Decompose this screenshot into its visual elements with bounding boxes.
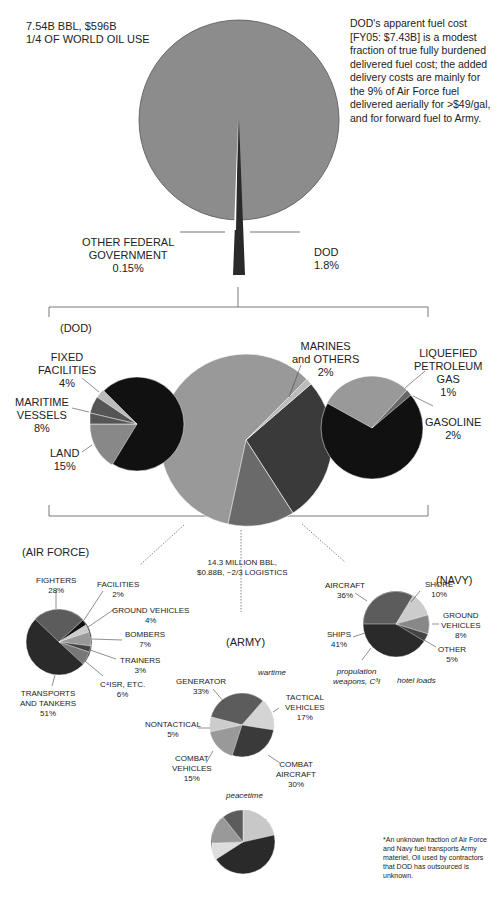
footnote: *An unknown fraction of Air Force and Na… [383,835,487,880]
note-line: [FY05: $7.43B] is a modest [350,31,490,45]
label-line: MARITIME [15,396,69,409]
dod-use-pie [90,377,184,471]
label-navy-shore: SHORE10% [425,580,453,600]
fuel-cost-note: DOD's apparent fuel cost [FY05: $7.43B] … [350,17,490,125]
dod-fuel-pie [321,376,423,479]
label-line: GAS [414,373,482,386]
label-line: FACILITIES [97,580,139,590]
label-line: FACILITIES [38,364,96,377]
label-line: 41% [327,640,351,650]
label-line: TACTICAL [285,693,325,703]
label-line: propulation [333,667,380,677]
air-force-title: (AIR FORCE) [22,546,89,559]
label-line: 15% [50,460,79,473]
label-line: TRANSPORTS [20,689,76,699]
label-army-combat-vehicles: COMBATVEHICLES15% [172,754,212,784]
label-af-ground: GROUND VEHICLES4% [112,606,189,626]
footnote-line: materiel, Oil used by contractors [383,853,487,862]
label-marines: MARINES and OTHERS 2% [292,340,359,379]
label-line: AIRCRAFT [325,581,365,591]
label-army-nontactical: NONTACTICAL5% [145,720,201,740]
footnote-line: unknown. [383,871,487,880]
label-line: GOVERNMENT [82,249,174,262]
label-line: FIXED [38,351,96,364]
label-line: 2% [292,366,359,379]
dod-section-title: (DOD) [60,322,92,335]
footnote-line: *An unknown fraction of Air Force [383,835,487,844]
label-navy-other: OTHER5% [438,645,466,665]
label-navy-ground: GROUNDVEHICLES8% [441,611,481,641]
label-line: 4% [112,616,189,626]
footnote-line: and Navy fuel transports Army [383,844,487,853]
navy-pie [363,591,429,657]
world-oil-summary: 7.54B BBL, $596B 1/4 OF WORLD OIL USE [26,20,150,46]
army-peacetime-pie [211,810,275,874]
army-wartime-pie [210,693,275,757]
label-line: 6% [100,690,145,700]
label-line: DOD [314,246,339,259]
label-line: $0.88B, ~2/3 LOGISTICS [197,568,288,578]
label-line: 17% [285,713,325,723]
label-line: TRAINERS [120,656,160,666]
label-land: LAND 15% [50,447,79,473]
label-maritime-vessels: MARITIME VESSELS 8% [15,396,69,435]
label-line: 1% [414,386,482,399]
label-line: COMBAT [172,754,212,764]
label-line: 30% [276,780,316,790]
label-fixed-facilities: FIXED FACILITIES 4% [38,351,96,390]
label-af-fighters: FIGHTERS28% [36,576,76,596]
label-line: BOMBERS [125,630,165,640]
label-line: 2% [425,429,481,442]
note-line: delivery costs are mainly for [350,71,490,85]
label-line: 4% [38,377,96,390]
label-line: 33% [176,687,226,697]
label-navy-aircraft: AIRCRAFT36% [325,581,365,601]
label-line: 7% [125,640,165,650]
label-line: GASOLINE [425,416,481,429]
label-line: 8% [15,422,69,435]
label-line: 5% [145,730,201,740]
label-af-trainers: TRAINERS3% [120,656,160,676]
label-line: 51% [20,709,76,719]
note-line: DOD's apparent fuel cost [350,17,490,31]
label-line: OTHER [438,645,466,655]
note-line: the 9% of Air Force fuel [350,85,490,99]
label-line: MARINES [292,340,359,353]
label-line: PETROLEUM [414,360,482,373]
label-line: OTHER FEDERAL [82,236,174,249]
dod-center-caption: 14.3 MILLION BBL, $0.88B, ~2/3 LOGISTICS [197,558,288,578]
label-af-bombers: BOMBERS7% [125,630,165,650]
label-line: GENERATOR [176,677,226,687]
label-line: 3% [120,666,160,676]
label-line: 10% [425,590,453,600]
label-line: C⁴ISR, ETC. [100,680,145,690]
air-force-pie [26,609,92,675]
label-line: 14.3 MILLION BBL, [197,558,288,568]
note-line: delivered aerially for >$49/gal, [350,98,490,112]
label-gasoline: GASOLINE 2% [425,416,481,442]
label-line: 15% [172,774,212,784]
label-line: and OTHERS [292,353,359,366]
label-af-facilities: FACILITIES2% [97,580,139,600]
label-line: VESSELS [15,409,69,422]
label-line: 1.8% [314,259,339,272]
army-title: (ARMY) [226,636,265,649]
label-line: GROUND [441,611,481,621]
label-line: LAND [50,447,79,460]
label-line: FIGHTERS [36,576,76,586]
army-wartime-label: wartime [258,668,286,678]
label-line: VEHICLES [441,621,481,631]
label-line: NONTACTICAL [145,720,201,730]
label-af-c4isr: C⁴ISR, ETC.6% [100,680,145,700]
label-line: 5% [438,655,466,665]
label-line: 0.15% [82,262,174,275]
label-line: 36% [325,591,365,601]
footnote-line: that DOD has outsourced is [383,862,487,871]
army-peacetime-label: peacetime [226,791,263,801]
label-lpg: LIQUEFIED PETROLEUM GAS 1% [414,347,482,399]
label-line: 28% [36,586,76,596]
label-dod: DOD 1.8% [314,246,339,272]
label-line: SHIPS [327,630,351,640]
label-line: COMBAT [276,760,316,770]
world-line-1: 7.54B BBL, $596B [26,20,150,33]
